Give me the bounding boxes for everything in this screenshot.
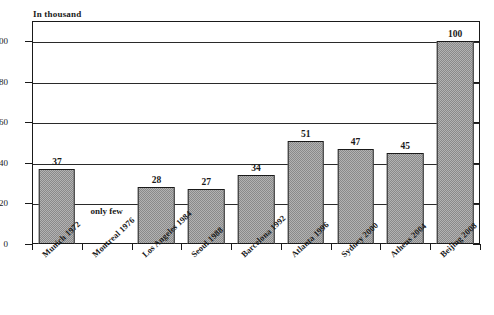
x-tick-mark [181, 244, 182, 250]
y-tick-mark-60 [25, 122, 32, 123]
y-tick-label-0: 0 [0, 239, 8, 249]
bar-group: 51 [281, 21, 331, 244]
x-tick-mark [32, 244, 33, 250]
bars-layer: 37only few282734514745100 [32, 21, 480, 244]
y-axis-unit-caption: In thousand [33, 9, 81, 19]
no-data-annotation: only few [91, 206, 123, 216]
y-tick-mark-0 [25, 244, 32, 245]
bar-value-label: 100 [448, 29, 462, 39]
bar-group: 34 [231, 21, 281, 244]
bar-value-label: 45 [401, 141, 411, 151]
x-tick-mark [231, 244, 232, 250]
bar-value-label: 28 [152, 175, 162, 185]
bar-group: 28 [132, 21, 182, 244]
bar-value-label: 27 [201, 177, 211, 187]
y-tick-label-100: 100 [0, 36, 8, 46]
bar-chart: In thousand 020406080100 37only few28273… [0, 0, 494, 315]
bar-value-label: 37 [52, 157, 62, 167]
bar-value-label: 34 [251, 163, 261, 173]
y-tick-mark-100 [25, 41, 32, 42]
y-tick-mark-80 [25, 82, 32, 83]
chart-title-cropped [0, 0, 494, 9]
x-tick-mark [380, 244, 381, 250]
x-tick-mark [281, 244, 282, 250]
x-tick-mark [132, 244, 133, 250]
x-tick-mark [480, 244, 481, 250]
bar [437, 41, 474, 244]
x-tick-mark [331, 244, 332, 250]
x-tick-mark [430, 244, 431, 250]
y-tick-label-60: 60 [0, 117, 8, 127]
y-tick-mark-right-0 [473, 244, 480, 245]
y-tick-mark-40 [25, 163, 32, 164]
y-tick-label-20: 20 [0, 198, 8, 208]
bar-group: 100 [430, 21, 480, 244]
bar-value-label: 51 [301, 129, 311, 139]
bar-group: 47 [331, 21, 381, 244]
y-tick-mark-20 [25, 203, 32, 204]
y-tick-label-80: 80 [0, 77, 8, 87]
bar-group: only few [82, 21, 132, 244]
y-tick-label-40: 40 [0, 158, 8, 168]
bar-group: 37 [32, 21, 82, 244]
x-tick-mark [82, 244, 83, 250]
bar-value-label: 47 [351, 137, 361, 147]
bar-group: 45 [380, 21, 430, 244]
